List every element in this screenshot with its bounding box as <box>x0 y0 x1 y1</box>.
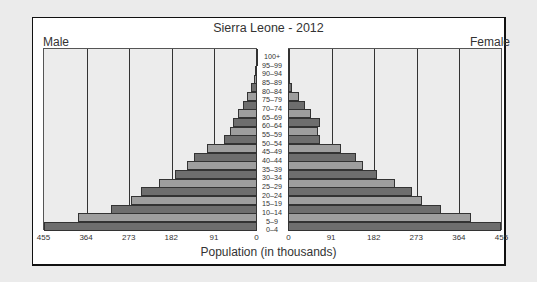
female-label: Female <box>470 35 510 49</box>
female-bar-75-79 <box>288 92 299 101</box>
tick-label: 273 <box>410 233 423 242</box>
tick-label: 364 <box>79 233 92 242</box>
male-bar-35-39 <box>187 161 257 170</box>
female-bar-55-59 <box>288 127 318 136</box>
female-bar-60-64 <box>288 118 320 127</box>
gridline <box>459 49 460 229</box>
female-bar-15-19 <box>288 196 422 205</box>
tick-label: 91 <box>327 233 336 242</box>
male-bar-0-4 <box>44 222 257 231</box>
male-bar-10-14 <box>111 205 257 214</box>
male-bar-25-29 <box>159 179 257 188</box>
male-bar-55-59 <box>230 127 257 136</box>
female-bar-20-24 <box>288 187 412 196</box>
tick-label: 182 <box>165 233 178 242</box>
female-bar-45-49 <box>288 144 341 153</box>
age-label: 0–4 <box>256 226 288 235</box>
female-bar-65-69 <box>288 109 311 118</box>
male-bar-15-19 <box>131 196 257 205</box>
male-plot-area <box>43 48 257 230</box>
male-bar-65-69 <box>238 109 257 118</box>
female-bar-10-14 <box>288 205 441 214</box>
female-bar-0-4 <box>288 222 501 231</box>
male-bar-40-44 <box>194 153 257 162</box>
female-bar-25-29 <box>288 179 395 188</box>
female-bar-5-9 <box>288 213 471 222</box>
female-bar-95-99 <box>288 57 290 66</box>
male-bar-20-24 <box>141 187 257 196</box>
tick-label: 455 <box>37 233 50 242</box>
gridline <box>129 49 130 229</box>
tick-label: 0 <box>254 233 258 242</box>
female-bar-40-44 <box>288 153 356 162</box>
female-bar-80-84 <box>288 83 292 92</box>
female-plot-area <box>288 48 502 230</box>
male-bar-60-64 <box>233 118 257 127</box>
chart-title: Sierra Leone - 2012 <box>0 21 537 35</box>
tick-label: 364 <box>452 233 465 242</box>
male-label: Male <box>43 35 69 49</box>
tick-label: 182 <box>367 233 380 242</box>
female-bar-100+ <box>288 49 290 58</box>
female-bar-30-34 <box>288 170 377 179</box>
female-bar-90-94 <box>288 66 290 75</box>
female-bar-70-74 <box>288 101 305 110</box>
male-bar-50-54 <box>224 135 257 144</box>
x-axis-label: Population (in thousands) <box>0 245 537 259</box>
male-bar-30-34 <box>175 170 257 179</box>
female-bar-85-89 <box>288 75 290 84</box>
female-bar-35-39 <box>288 161 363 170</box>
tick-label: 91 <box>209 233 218 242</box>
male-bar-70-74 <box>243 101 257 110</box>
male-bar-5-9 <box>78 213 257 222</box>
gridline <box>87 49 88 229</box>
tick-label: 273 <box>122 233 135 242</box>
female-bar-50-54 <box>288 135 320 144</box>
tick-label: 0 <box>286 233 290 242</box>
male-bar-45-49 <box>207 144 257 153</box>
tick-label: 455 <box>495 233 508 242</box>
